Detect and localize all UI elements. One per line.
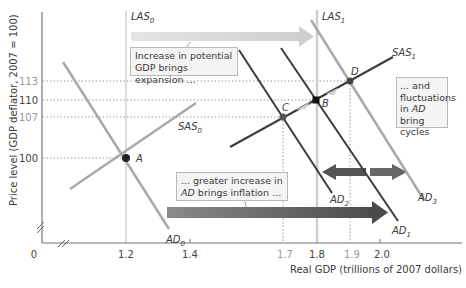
inflation-note-line2: AD brings inflation ... xyxy=(181,187,283,199)
ad-as-chart: 113 110 107 100 0 1.2 1.4 1.7 1.8 1.9 2.… xyxy=(0,0,466,288)
inflation-note-ad: AD xyxy=(181,187,195,198)
xtick-18: 1.8 xyxy=(309,249,325,260)
xtick-19: 1.9 xyxy=(344,249,360,260)
cycles-note-line4: cycles xyxy=(400,126,444,138)
ad3-label: AD3 xyxy=(417,192,437,206)
origin-label: 0 xyxy=(31,249,37,260)
point-a-label: A xyxy=(135,153,143,164)
point-d-label: D xyxy=(351,66,359,77)
las0-label: LAS0 xyxy=(131,11,155,25)
cycles-note-line3: in AD bring xyxy=(400,103,444,126)
point-b xyxy=(313,97,320,104)
sas1-curve xyxy=(230,57,393,147)
cycles-note: ... and fluctuations in AD bring cycles xyxy=(396,77,448,128)
cycles-note-line1: ... and xyxy=(400,80,444,92)
inflation-note: ... greater increase in AD brings inflat… xyxy=(176,172,288,201)
ad1-label: AD1 xyxy=(391,225,411,239)
ad0-label: AD0 xyxy=(165,234,186,248)
ad0-curve xyxy=(63,62,169,229)
point-d xyxy=(347,78,354,85)
ytick-110: 110 xyxy=(19,95,38,106)
xtick-17: 1.7 xyxy=(277,249,293,260)
inflation-arrow xyxy=(167,201,388,224)
expansion-note-line1: Increase in potential xyxy=(135,50,233,62)
point-c xyxy=(280,114,287,121)
inflation-note-line1: ... greater increase in xyxy=(181,175,283,187)
las1-label: LAS1 xyxy=(322,11,345,25)
sas0-label: SAS0 xyxy=(178,121,203,135)
x-axis-title: Real GDP (trillions of 2007 dollars) xyxy=(290,264,462,275)
cycles-note-pre: in xyxy=(400,103,412,114)
potential-gdp-arrow xyxy=(131,26,314,47)
expansion-note-line2: GDP brings expansion ... xyxy=(135,62,233,86)
ytick-100: 100 xyxy=(19,153,38,164)
sas1-label: SAS1 xyxy=(392,47,416,61)
point-b-label: B xyxy=(322,98,329,109)
cycles-note-ad: AD xyxy=(412,103,426,114)
xtick-12: 1.2 xyxy=(118,249,134,260)
ytick-107: 107 xyxy=(19,112,38,123)
ad2-label: AD2 xyxy=(329,194,350,208)
cycles-note-line2: fluctuations xyxy=(400,92,444,104)
expansion-note: Increase in potential GDP brings expansi… xyxy=(130,47,238,76)
ytick-113: 113 xyxy=(19,76,38,87)
xtick-14: 1.4 xyxy=(182,249,198,260)
point-c-label: C xyxy=(282,102,289,113)
inflation-note-rest: brings inflation ... xyxy=(195,187,281,198)
y-axis-title: Price level (GDP deflator, 2007 = 100) xyxy=(8,14,19,206)
cycles-note-rest: bring xyxy=(400,115,425,126)
xtick-20: 2.0 xyxy=(374,249,390,260)
point-a xyxy=(122,154,130,162)
